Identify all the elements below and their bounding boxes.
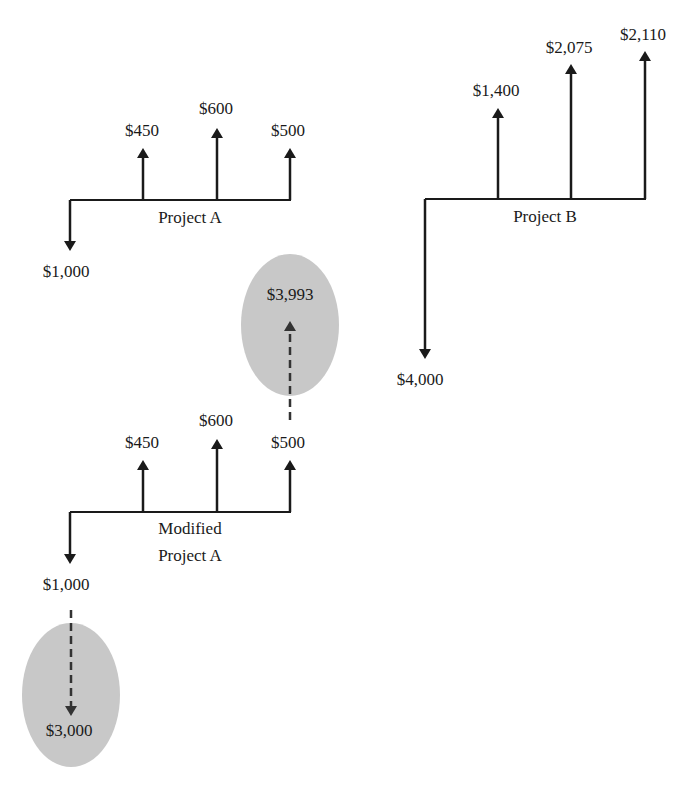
project-a-inflow-1-label: $450	[125, 121, 159, 141]
modified-project-a-title-line1: Modified	[158, 519, 221, 539]
project-b-inflow-3-label: $2,110	[620, 25, 666, 45]
project-b-title: Project B	[513, 207, 577, 227]
cash-flow-diagram	[0, 0, 699, 798]
project-b-inflow-1-label: $1,400	[473, 81, 520, 101]
project-a-inflow-2-label: $600	[199, 99, 233, 119]
modified-project-a-outflow-label: $1,000	[43, 575, 90, 595]
project-a-timeline	[70, 133, 291, 246]
project-a-title: Project A	[158, 208, 222, 228]
terminal-value-label: $3,993	[267, 285, 314, 305]
project-a-outflow-label: $1,000	[43, 262, 90, 282]
pv-outflow-label: $3,000	[46, 721, 93, 741]
modified-project-a-timeline	[70, 444, 291, 559]
modified-project-a-inflow-1-label: $450	[125, 433, 159, 453]
modified-project-a-inflow-3-label: $500	[271, 433, 305, 453]
modified-project-a-inflow-2-label: $600	[199, 411, 233, 431]
project-b-timeline	[425, 56, 646, 354]
project-b-inflow-2-label: $2,075	[546, 38, 593, 58]
project-a-inflow-3-label: $500	[271, 121, 305, 141]
project-b-outflow-label: $4,000	[397, 370, 444, 390]
modified-project-a-title-line2: Project A	[158, 546, 222, 566]
